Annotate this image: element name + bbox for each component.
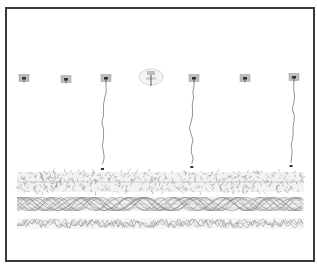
graph-node — [189, 75, 199, 83]
tendril-edge — [101, 82, 106, 170]
hub-node — [139, 69, 163, 86]
network-diagram — [0, 0, 317, 270]
graph-node — [61, 76, 71, 84]
graph-node — [19, 75, 29, 83]
braided-band — [17, 197, 304, 211]
dense-band — [16, 169, 306, 196]
graph-node — [101, 75, 111, 83]
tendril-edge — [290, 81, 295, 167]
zigzag-band — [17, 218, 304, 229]
graph-node — [289, 74, 299, 82]
tendril-edge — [189, 82, 194, 168]
graph-node — [240, 75, 250, 83]
